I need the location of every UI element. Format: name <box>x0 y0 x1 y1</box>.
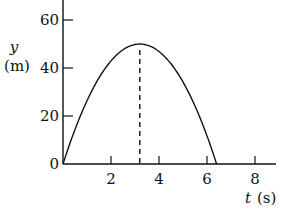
x-tick-label: 8 <box>250 170 260 188</box>
x-ticks: 2468 <box>106 156 260 188</box>
trajectory-chart: 2468 0204060 y (m) t (s) <box>0 0 286 218</box>
y-tick-label: 60 <box>40 11 59 29</box>
x-tick-label: 6 <box>202 170 212 188</box>
y-tick-label: 0 <box>49 155 59 173</box>
y-tick-label: 20 <box>40 107 59 125</box>
y-tick-label: 40 <box>40 59 59 77</box>
y-axis-label-unit: (m) <box>4 57 30 75</box>
x-axis-label-var: t <box>245 189 252 207</box>
x-tick-label: 2 <box>106 170 116 188</box>
x-axis-label-unit: (s) <box>257 189 276 207</box>
axes <box>63 0 276 164</box>
x-tick-label: 4 <box>154 170 164 188</box>
y-axis-label-var: y <box>9 38 19 56</box>
